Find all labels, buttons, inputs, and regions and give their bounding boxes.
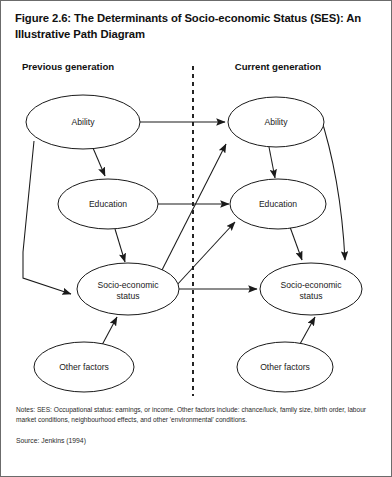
node-curr-ses: Socio-economic status <box>260 263 362 315</box>
edge-curr-other-to-curr-ses <box>300 317 315 344</box>
node-prev-ability: Ability <box>26 95 140 149</box>
node-curr-ses-label-line2: status <box>300 291 323 301</box>
figure-container: Figure 2.6: The Determinants of Socio-ec… <box>0 0 392 477</box>
figure-source: Source: Jenkins (1994) <box>16 436 374 446</box>
node-curr-ses-label-line1: Socio-economic <box>280 280 342 290</box>
path-diagram: Previous generation Current generation <box>1 56 392 401</box>
figure-footnotes: Notes: SES: Occupational status: earning… <box>16 405 374 446</box>
edge-curr-ability-to-curr-ses <box>319 112 345 260</box>
edge-prev-ability-to-prev-ses <box>23 141 71 294</box>
node-prev-other-factors: Other factors <box>34 342 134 392</box>
node-prev-ability-label: Ability <box>72 117 96 127</box>
edge-prev-other-to-prev-ses <box>102 317 117 345</box>
edge-curr-ability-to-curr-education <box>269 147 275 178</box>
node-curr-ability: Ability <box>228 97 324 147</box>
column-heading-current: Current generation <box>235 61 321 72</box>
edge-curr-education-to-curr-ses <box>290 227 302 260</box>
figure-title: Figure 2.6: The Determinants of Socio-ec… <box>15 11 373 42</box>
figure-notes: Notes: SES: Occupational status: earning… <box>16 405 374 424</box>
node-prev-ses: Socio-economic status <box>77 263 179 315</box>
node-curr-other-factors-label: Other factors <box>260 362 310 372</box>
node-curr-education-label: Education <box>259 199 297 209</box>
column-heading-previous: Previous generation <box>22 61 114 72</box>
node-curr-education: Education <box>230 179 326 229</box>
node-curr-ability-label: Ability <box>265 117 289 127</box>
node-prev-education: Education <box>58 179 158 229</box>
node-prev-other-factors-label: Other factors <box>59 362 109 372</box>
node-curr-other-factors: Other factors <box>237 342 333 392</box>
edge-prev-ability-to-prev-education <box>93 148 105 176</box>
node-prev-ses-label-line1: Socio-economic <box>97 280 159 290</box>
edge-prev-education-to-prev-ses <box>115 229 125 262</box>
node-prev-education-label: Education <box>89 199 127 209</box>
node-prev-ses-label-line2: status <box>117 291 140 301</box>
